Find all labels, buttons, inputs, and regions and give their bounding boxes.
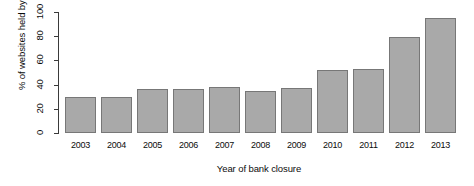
y-axis-tick-label: 80 bbox=[34, 25, 45, 47]
x-axis-tick-label: 2009 bbox=[280, 140, 314, 150]
y-axis-tick-label: 0 bbox=[34, 122, 45, 144]
x-axis-tick-label: 2006 bbox=[172, 140, 206, 150]
bar bbox=[281, 88, 312, 133]
y-axis-tick bbox=[54, 60, 58, 61]
y-axis-tick-label: 60 bbox=[34, 49, 45, 71]
bar bbox=[65, 97, 96, 133]
x-axis-tick-label: 2013 bbox=[424, 140, 458, 150]
bar bbox=[353, 69, 384, 133]
y-axis-tick bbox=[54, 85, 58, 86]
bar bbox=[101, 97, 132, 133]
x-axis-tick-label: 2012 bbox=[388, 140, 422, 150]
y-axis-tick-label: 20 bbox=[34, 97, 45, 119]
x-axis-tick-label: 2008 bbox=[244, 140, 278, 150]
y-axis-tick-label: 40 bbox=[34, 73, 45, 95]
x-axis-tick-label: 2004 bbox=[100, 140, 134, 150]
x-axis-tick-label: 2010 bbox=[316, 140, 350, 150]
x-axis-tick-label: 2005 bbox=[136, 140, 170, 150]
x-axis-title: Year of bank closure bbox=[59, 163, 459, 174]
bar bbox=[245, 91, 276, 133]
y-axis-title: % of websites held by banks bbox=[16, 0, 27, 97]
bar bbox=[425, 18, 456, 133]
bar bbox=[209, 87, 240, 133]
y-axis-tick bbox=[54, 36, 58, 37]
y-axis-tick-label: 100 bbox=[34, 1, 45, 23]
bar bbox=[173, 89, 204, 133]
bar-chart: % of websites held by banks 020406080100… bbox=[0, 0, 474, 186]
plot-area bbox=[59, 12, 469, 133]
x-axis-tick-label: 2007 bbox=[208, 140, 242, 150]
y-axis-tick bbox=[54, 133, 58, 134]
y-axis-tick bbox=[54, 109, 58, 110]
y-axis-tick bbox=[54, 12, 58, 13]
x-axis-tick-label: 2011 bbox=[352, 140, 386, 150]
bar bbox=[389, 37, 420, 133]
bar bbox=[317, 70, 348, 133]
bar bbox=[137, 89, 168, 133]
x-axis-tick-label: 2003 bbox=[64, 140, 98, 150]
